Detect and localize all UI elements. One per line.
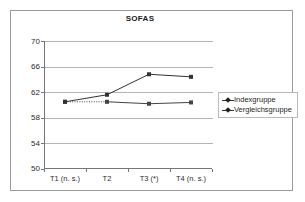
gridline-54 [45,143,213,144]
x-tick-mark [128,169,129,172]
chart-figure: SOFAS 70 66 62 58 54 50 T1 (n. s.) T2 T3… [0,0,305,202]
x-axis-label-t1: T1 (n. s.) [50,174,80,183]
x-tick-mark [44,169,45,172]
x-axis-label-t4: T4 (n. s.) [176,174,206,183]
legend-item-indexgruppe[interactable]: Indexgruppe [222,95,295,105]
y-axis-tick-label-62: 62 [18,89,40,97]
legend-label: Vergleichsgruppe [234,105,292,115]
legend-marker-icon [222,106,234,115]
y-axis-tick-label-70: 70 [18,38,40,46]
gridline-70 [45,41,213,42]
legend-item-vergleichsgruppe[interactable]: Vergleichsgruppe [222,105,295,115]
legend-marker-icon [222,96,234,105]
x-tick-mark [212,169,213,172]
chart-title: SOFAS [60,14,220,23]
x-tick-mark [170,169,171,172]
y-axis-tick-label-58: 58 [18,114,40,122]
x-tick-mark [86,169,87,172]
plot-area [44,41,212,169]
y-axis-tick-label-50: 50 [18,165,40,173]
chart-legend: Indexgruppe Vergleichsgruppe [218,92,298,118]
y-axis-tick-label-54: 54 [18,140,40,148]
legend-label: Indexgruppe [234,95,276,105]
gridline-66 [45,67,213,68]
gridline-62 [45,92,213,93]
x-axis-label-t3: T3 (*) [140,174,159,183]
y-axis-tick-label-66: 66 [18,63,40,71]
gridline-58 [45,118,213,119]
x-axis-label-t2: T2 [103,174,112,183]
